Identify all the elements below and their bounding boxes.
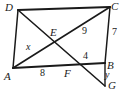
vertex-label-C: C — [111, 1, 118, 12]
segment-DG-transversal — [18, 10, 105, 86]
vertex-label-G: G — [108, 80, 116, 91]
measure-label-BC: 7 — [112, 27, 117, 37]
measure-label-AE: x — [26, 42, 30, 52]
vertex-label-D: D — [5, 2, 13, 13]
segment-DC — [18, 7, 110, 10]
measure-label-FB: 4 — [83, 51, 88, 61]
vertex-label-E: E — [50, 27, 57, 38]
segment-AB — [13, 63, 105, 68]
measure-label-EC: 9 — [82, 26, 87, 36]
geometry-figure: D C A B E F G x 9 8 4 7 y — [0, 0, 123, 93]
measure-label-BG: y — [105, 70, 109, 80]
segment-DA — [13, 10, 18, 68]
segment-AC-diagonal — [13, 7, 110, 68]
vertex-label-A: A — [4, 71, 11, 82]
segment-BC — [105, 7, 110, 63]
measure-label-AF: 8 — [40, 68, 45, 78]
vertex-label-F: F — [64, 68, 71, 79]
